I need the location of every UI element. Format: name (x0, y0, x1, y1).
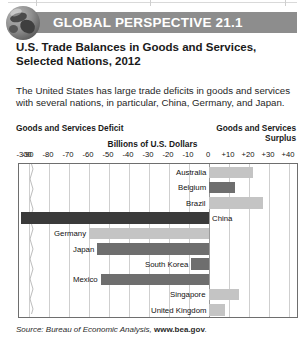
source-link[interactable]: www.bea.gov (154, 325, 205, 334)
source-note: Source: Bureau of Economic Analysis, www… (16, 325, 207, 334)
global-perspective-banner: GLOBAL PERSPECTIVE 21.1 (34, 12, 297, 33)
figure-title: U.S. Trade Balances in Goods and Service… (16, 41, 294, 68)
top-divider (8, 2, 297, 3)
source-suffix: . (205, 325, 207, 334)
top-tick-mark (150, 0, 151, 6)
chart-bar-label: Japan (73, 244, 94, 255)
chart-plot-area: AustraliaBelgiumBrazilChinaGermanyJapanS… (18, 163, 298, 318)
x-tick-label: -50 (103, 150, 114, 159)
deficit-caption: Goods and Services Deficit (16, 123, 123, 133)
top-tick-mark (285, 0, 286, 6)
chart-bar-label: United Kingdom (151, 305, 206, 316)
chart-bar-label: Belgium (178, 182, 206, 193)
chart-row: Germany (19, 226, 297, 242)
globe-landmass (19, 19, 36, 35)
chart-row: Belgium (19, 180, 297, 196)
chart-bar-label: Brazil (186, 198, 206, 209)
x-tick-label: 0 (206, 150, 210, 159)
chart-bar (21, 212, 209, 224)
figure-description: The United States has large trade defici… (16, 85, 298, 110)
x-tick-label: +40 (282, 150, 295, 159)
chart-row: United Kingdom (19, 302, 297, 318)
chart-row: China (19, 210, 297, 226)
source-prefix: Source: Bureau of Economic Analysis, (16, 325, 154, 334)
x-tick-label: -90 (23, 150, 34, 159)
x-tick-label: +10 (222, 150, 235, 159)
x-axis-title: Billions of U.S. Dollars (0, 139, 305, 149)
x-axis-tick-labels: -300-90-80-70-60-50-40-30-20-100+10+20+3… (0, 150, 305, 162)
chart-row: Australia (19, 165, 297, 181)
chart-bar (209, 167, 253, 179)
x-tick-label: -80 (43, 150, 54, 159)
chart-bar-label: South Korea (145, 259, 188, 270)
chart-bar (89, 228, 209, 240)
figure-box: GLOBAL PERSPECTIVE 21.1 U.S. Trade Balan… (0, 0, 305, 342)
x-tick-label: -10 (183, 150, 194, 159)
chart-bar-label: Germany (54, 228, 86, 239)
x-tick-label: -30 (143, 150, 154, 159)
chart-bar-label: Australia (176, 167, 206, 178)
globe-landmass (9, 25, 18, 33)
chart-bar (101, 274, 209, 286)
chart-row: Brazil (19, 195, 297, 211)
x-tick-label: +20 (242, 150, 255, 159)
chart-bar (209, 304, 225, 316)
x-tick-label: -40 (123, 150, 134, 159)
chart-row: Singapore (19, 287, 297, 303)
chart-bar (209, 197, 263, 209)
chart-row: Japan (19, 241, 297, 257)
chart-bar-label: Mexico (73, 274, 98, 285)
banner-title: GLOBAL PERSPECTIVE 21.1 (53, 15, 243, 30)
chart-bar (209, 182, 235, 194)
x-tick-label: -20 (163, 150, 174, 159)
chart-bar-label: Singapore (170, 289, 206, 300)
globe-icon (6, 6, 40, 40)
top-tick-mark (36, 0, 37, 6)
x-tick-label: -60 (83, 150, 94, 159)
chart-bar (209, 289, 239, 301)
chart-bar (97, 243, 209, 255)
x-tick-label: -70 (63, 150, 74, 159)
chart-row: South Korea (19, 256, 297, 272)
chart-bar (191, 258, 209, 270)
x-tick-label: +30 (262, 150, 275, 159)
chart-row: Mexico (19, 272, 297, 288)
chart-bar-label: China (212, 213, 232, 224)
